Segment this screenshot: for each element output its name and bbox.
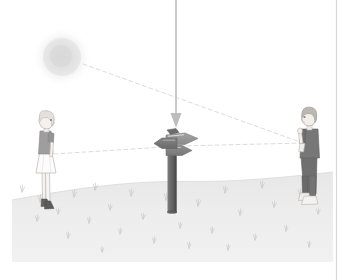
girl-leg-front: [46, 171, 51, 201]
girl-eye: [50, 119, 52, 121]
boy-hand: [298, 128, 303, 134]
scene-svg: [0, 0, 345, 280]
boy-eye: [303, 116, 305, 118]
sun-light-source: [32, 27, 92, 87]
girl-arm: [50, 142, 54, 157]
girl-skirt: [36, 153, 56, 173]
illustration-canvas: [0, 0, 345, 280]
boy-leg-front: [309, 176, 316, 196]
boy-shoe-front: [302, 196, 319, 205]
boy-leg-back: [302, 176, 308, 195]
girl-sleeve: [48, 132, 54, 143]
